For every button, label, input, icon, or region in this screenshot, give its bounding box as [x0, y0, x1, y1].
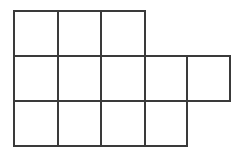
grid-cell-r1c2	[101, 56, 145, 101]
grid-cell-r1c1	[58, 56, 101, 101]
figure-container	[0, 0, 240, 152]
grid-cell-r1c4	[187, 56, 230, 101]
grid-cell-r0c0	[14, 11, 58, 56]
grid-cell-r1c0	[14, 56, 58, 101]
polyomino-grid-svg	[0, 0, 240, 152]
grid-cell-r2c2	[101, 101, 145, 146]
grid-cell-r2c0	[14, 101, 58, 146]
grid-cell-r0c2	[101, 11, 145, 56]
grid-cell-r1c3	[145, 56, 187, 101]
grid-cell-r2c3	[145, 101, 187, 146]
grid-cell-r2c1	[58, 101, 101, 146]
grid-cell-r0c1	[58, 11, 101, 56]
